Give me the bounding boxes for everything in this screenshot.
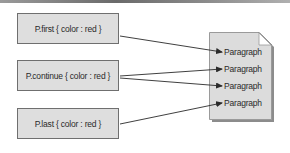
arrow-continue-to-paragraph-2 <box>120 69 222 76</box>
arrow-last-to-paragraph-4 <box>120 103 222 124</box>
arrow-continue-to-paragraph-3 <box>120 78 222 86</box>
connection-arrows <box>0 0 290 153</box>
arrow-first-to-paragraph-1 <box>120 36 222 52</box>
